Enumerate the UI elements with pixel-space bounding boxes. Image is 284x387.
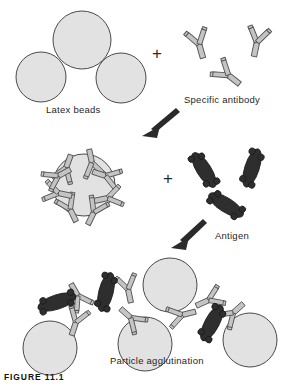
plus-operator-top: + (152, 45, 162, 62)
latex-bead (143, 258, 197, 312)
label-particle-agglutination: Particle agglutination (110, 355, 204, 366)
particle-agglutination-diagram (0, 0, 284, 387)
label-antigen: Antigen (215, 230, 249, 241)
label-latex-beads: Latex beads (46, 104, 101, 115)
figure-caption: FIGURE 11.1 (4, 372, 64, 382)
figure-container: + + Latex beads Specific antibody Antige… (0, 0, 284, 387)
latex-bead (23, 321, 77, 375)
plus-operator-middle: + (163, 170, 173, 187)
label-specific-antibody: Specific antibody (184, 94, 260, 105)
latex-bead (96, 53, 146, 103)
latex-bead (53, 11, 111, 69)
latex-bead (16, 52, 66, 102)
